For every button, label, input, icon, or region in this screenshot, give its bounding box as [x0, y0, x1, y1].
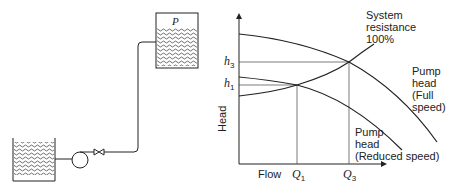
label-line: speed) [412, 101, 446, 113]
label-line: Pump [355, 126, 439, 138]
label-line: (Reduced speed) [355, 150, 439, 162]
supply-tank [13, 138, 55, 181]
pump-icon [72, 152, 94, 168]
valve-icon [94, 149, 104, 155]
label-line: head [412, 77, 446, 89]
pump-head-full-speed-label: Pump head (Full speed) [412, 65, 446, 113]
tick-h3: h3 [224, 55, 234, 72]
label-line: head [355, 138, 439, 150]
label-line: resistance [366, 21, 416, 33]
y-axis-label: Head [216, 106, 228, 132]
label-line: Pump [412, 65, 446, 77]
label-line: (Full [412, 89, 446, 101]
system-resistance-label: System resistance 100% [366, 9, 416, 45]
x-axis-label: Flow [258, 168, 281, 180]
discharge-pipe [104, 42, 156, 152]
tick-q1: Q1 [292, 168, 305, 185]
tick-q3: Q3 [343, 168, 356, 185]
tick-h1: h1 [224, 77, 234, 94]
label-line: 100% [366, 33, 416, 45]
label-line: System [366, 9, 416, 21]
pump-head-reduced-speed-label: Pump head (Reduced speed) [355, 126, 439, 162]
upper-tank-label: P [172, 15, 179, 27]
